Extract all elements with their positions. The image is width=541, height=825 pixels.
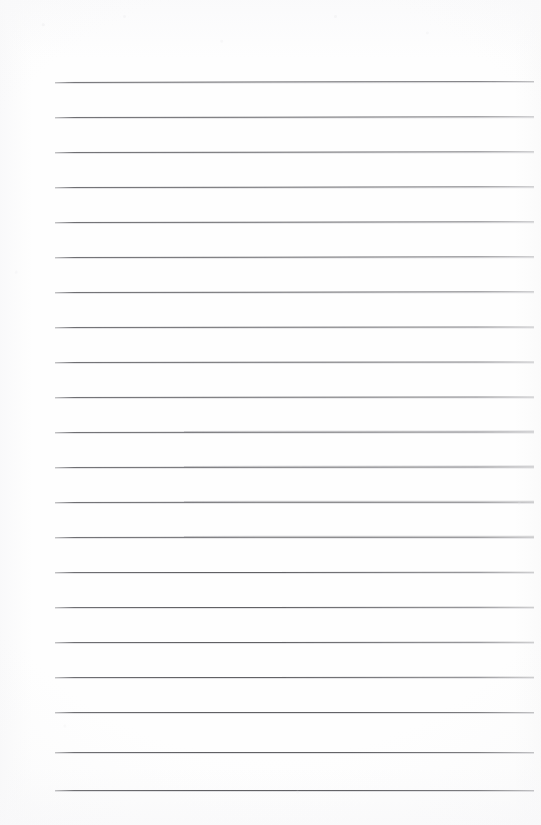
rule-line xyxy=(55,607,534,608)
rule-line xyxy=(55,432,534,433)
rule-line xyxy=(55,467,534,468)
rule-line xyxy=(55,291,534,293)
paper-texture-overlay xyxy=(0,0,541,825)
rule-line xyxy=(55,116,534,118)
rule-line xyxy=(55,712,534,713)
rule-line xyxy=(55,81,534,83)
rule-line xyxy=(55,256,534,258)
rule-line xyxy=(55,396,534,398)
rule-line xyxy=(55,502,534,503)
rule-line xyxy=(55,752,534,753)
rule-line xyxy=(55,537,534,538)
rule-line xyxy=(55,186,534,188)
rule-line xyxy=(55,790,534,791)
rule-line xyxy=(55,151,534,153)
rule-line xyxy=(55,677,534,678)
scan-noise-overlay xyxy=(0,0,541,825)
rule-line xyxy=(55,326,534,328)
rule-line xyxy=(55,361,534,363)
rule-line xyxy=(55,572,534,573)
rule-line xyxy=(55,642,534,643)
lined-paper-page xyxy=(0,0,541,825)
rule-line xyxy=(55,221,534,223)
